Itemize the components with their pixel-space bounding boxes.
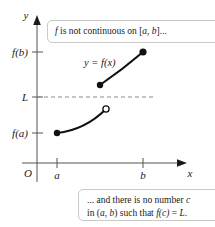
callout-bottom-eq: =: [169, 208, 179, 218]
callout-no-number-c: ... and there is no number c in (a, b) s…: [78, 189, 215, 221]
endpoint-filled-fb: [139, 48, 146, 55]
callout-top-tail: ]...: [157, 26, 167, 36]
curve-equation-label: y = f(x): [83, 57, 116, 69]
callout-bottom-line2: in (a, b) such that f(c) = L.: [87, 207, 215, 220]
callout-not-continuous: f is not continuous on [a, b]...: [47, 20, 215, 43]
origin-label: O: [24, 167, 32, 179]
endpoint-filled-right-start: [97, 82, 103, 88]
y-tick-label-fa: f(a): [12, 127, 28, 140]
curve-left-branch: [57, 109, 106, 133]
y-axis-label: y: [23, 9, 29, 21]
callout-top-text: f is not continuous on [a, b]...: [55, 25, 215, 38]
callout-bottom-fc: f(c): [156, 208, 169, 218]
x-axis-label: x: [187, 167, 193, 179]
y-tick-label-fb: f(b): [12, 46, 28, 59]
x-axis-arrowhead: [177, 159, 187, 167]
callout-bottom-line2-pre: in (: [87, 208, 100, 218]
callout-bottom-post: ) such that: [114, 208, 156, 218]
x-tick-label-a: a: [54, 169, 60, 181]
y-tick-label-L: L: [21, 91, 28, 103]
endpoint-filled-fa: [54, 130, 60, 136]
callout-bottom-c: c: [186, 195, 190, 205]
endpoint-open-left-limit: [103, 106, 109, 112]
figure-container: y x O f(b) L f(a) a b y = f(x) f is not …: [0, 0, 215, 227]
callout-bottom-line1: ... and there is no number c: [87, 194, 215, 207]
callout-top-after: is not continuous on [: [58, 26, 143, 36]
callout-bottom-end: .: [185, 208, 187, 218]
y-axis-arrowhead: [33, 15, 41, 25]
callout-bottom-line1-pre: ... and there is no number: [87, 195, 186, 205]
x-tick-label-b: b: [140, 169, 146, 181]
